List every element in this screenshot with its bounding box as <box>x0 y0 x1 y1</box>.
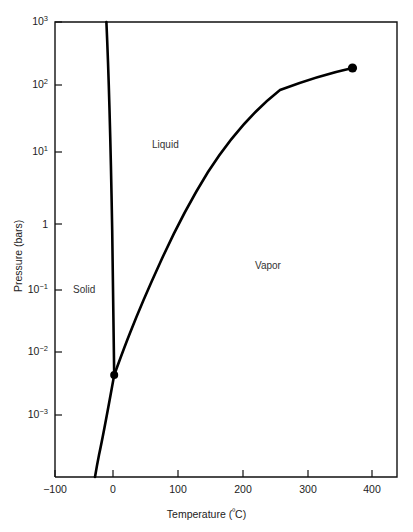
x-tick-label-m100: −100 <box>43 484 67 495</box>
x-tick-label-400: 400 <box>363 484 381 495</box>
y-axis-title: Pressure (bars) <box>13 220 24 292</box>
x-axis-title-unit: C) <box>235 508 246 520</box>
region-label-solid: Solid <box>73 285 95 295</box>
x-axis-title-text: Temperature ( <box>167 508 232 520</box>
x-axis-title: Temperature (ºC) <box>0 509 413 520</box>
fusion-curve <box>106 22 114 375</box>
critical-point-marker <box>348 63 357 72</box>
y-axis-ticks <box>55 22 62 415</box>
plot-canvas <box>0 0 413 532</box>
x-tick-label-0: 0 <box>110 484 116 495</box>
vaporization-curve <box>114 68 352 375</box>
y-tick-label-1em2: 10−2 <box>16 346 48 357</box>
x-tick-label-300: 300 <box>299 484 317 495</box>
sublimation-curve <box>95 375 114 477</box>
y-tick-label-1em3: 10−3 <box>16 409 48 420</box>
region-label-liquid: Liquid <box>152 140 179 150</box>
y-tick-label-1e1: 101 <box>16 146 48 157</box>
triple-point-marker <box>110 371 118 379</box>
x-axis-ticks <box>55 470 372 477</box>
y-tick-label-1e3: 103 <box>16 16 48 27</box>
x-tick-label-100: 100 <box>169 484 187 495</box>
y-tick-label-1e2: 102 <box>16 79 48 90</box>
x-tick-label-200: 200 <box>234 484 252 495</box>
region-label-vapor: Vapor <box>255 261 281 271</box>
phase-diagram-figure: 103 102 101 1 10−1 10−2 10−3 −100 0 100 … <box>0 0 413 532</box>
axis-frame <box>55 22 397 477</box>
